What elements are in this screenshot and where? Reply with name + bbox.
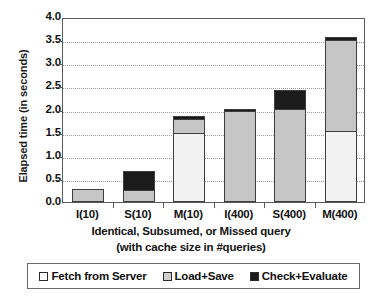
- gridline: [63, 112, 364, 113]
- y-axis-tick-label: 0.0: [17, 195, 61, 207]
- gridline: [63, 181, 364, 182]
- bar-segment-check-evaluate: [274, 90, 306, 109]
- legend-item[interactable]: Check+Evaluate: [250, 270, 348, 282]
- black-square-icon: [250, 272, 259, 281]
- bar-segment-check-evaluate: [123, 171, 155, 190]
- x-axis-title-line2: (with cache size in #queries): [0, 241, 382, 253]
- legend-item-label: Load+Save: [175, 270, 234, 282]
- gridline: [63, 135, 364, 136]
- bar-segment-load-save: [274, 109, 306, 202]
- y-axis-tick-label: 0.5: [17, 172, 61, 184]
- bar-segment-fetch-from-server: [325, 131, 357, 202]
- gridline: [63, 88, 364, 89]
- y-axis-title: Elapsed time (in seconds): [17, 16, 29, 216]
- y-axis-tick-label: 2.5: [17, 79, 61, 91]
- gridline: [63, 42, 364, 43]
- legend-item-label: Fetch from Server: [51, 270, 146, 282]
- bar-segment-load-save: [325, 40, 357, 131]
- legend-item[interactable]: Load+Save: [163, 270, 234, 282]
- gridline: [63, 65, 364, 66]
- bar-s10: [123, 171, 155, 202]
- y-axis-tick-label: 3.0: [17, 56, 61, 68]
- legend-item-label: Check+Evaluate: [262, 270, 348, 282]
- x-axis-title-line1: Identical, Subsumed, or Missed query: [0, 225, 382, 237]
- plot-area: [62, 18, 365, 203]
- y-axis-tick-label: 1.0: [17, 149, 61, 161]
- chart-figure: Elapsed time (in seconds) 0.00.51.01.52.…: [0, 0, 382, 307]
- bar-segment-load-save: [72, 189, 104, 202]
- bar-i400: [224, 109, 256, 202]
- y-axis-tick-label: 2.0: [17, 103, 61, 115]
- bar-m400: [325, 37, 357, 202]
- bar-m10: [173, 116, 205, 202]
- gridline: [63, 158, 364, 159]
- x-axis-tick-label: M(400): [310, 208, 370, 220]
- chart-legend: Fetch from ServerLoad+SaveCheck+Evaluate: [27, 263, 360, 289]
- white-square-icon: [39, 272, 48, 281]
- bar-segment-load-save: [173, 119, 205, 133]
- y-axis-tick-label: 1.5: [17, 126, 61, 138]
- y-axis-tick-label: 4.0: [17, 10, 61, 22]
- bar-segment-fetch-from-server: [173, 133, 205, 202]
- legend-item[interactable]: Fetch from Server: [39, 270, 146, 282]
- bar-segment-load-save: [224, 111, 256, 202]
- bar-i10: [72, 189, 104, 202]
- bar-s400: [274, 90, 306, 202]
- bar-segment-load-save: [123, 190, 155, 202]
- gray-square-icon: [163, 272, 172, 281]
- y-axis-tick-label: 3.5: [17, 33, 61, 45]
